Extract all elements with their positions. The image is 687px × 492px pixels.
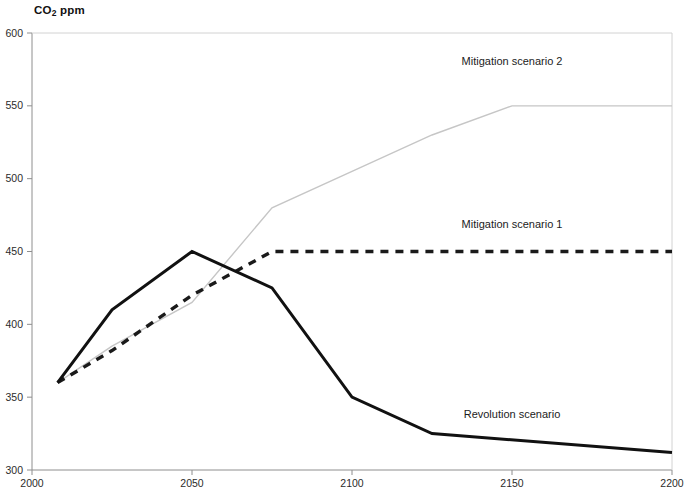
series-label: Mitigation scenario 2	[462, 55, 563, 67]
y-tick-label: 300	[5, 464, 23, 476]
series-label-group: Mitigation scenario 2Mitigation scenario…	[462, 55, 563, 420]
series-line	[58, 106, 672, 383]
chart-plot-area: 300350400450500550600 200020502100215022…	[0, 0, 687, 492]
co2-scenarios-chart: CO2 ppm 300350400450500550600 2000205021…	[0, 0, 687, 492]
x-tick-label: 2150	[500, 477, 524, 489]
y-tick-label: 500	[5, 172, 23, 184]
series-line	[58, 252, 672, 383]
series-group	[58, 106, 672, 453]
x-tick-group: 20002050210021502200	[20, 470, 684, 489]
y-tick-label: 450	[5, 245, 23, 257]
x-tick-label: 2050	[180, 477, 204, 489]
series-label: Mitigation scenario 1	[462, 218, 563, 230]
y-tick-label: 550	[5, 99, 23, 111]
y-tick-label: 400	[5, 318, 23, 330]
series-line	[58, 252, 672, 453]
y-tick-label: 600	[5, 27, 23, 39]
series-label: Revolution scenario	[464, 408, 561, 420]
x-tick-label: 2200	[660, 477, 684, 489]
x-tick-label: 2000	[20, 477, 44, 489]
x-tick-label: 2100	[340, 477, 364, 489]
y-tick-group: 300350400450500550600	[5, 27, 32, 476]
y-tick-label: 350	[5, 391, 23, 403]
